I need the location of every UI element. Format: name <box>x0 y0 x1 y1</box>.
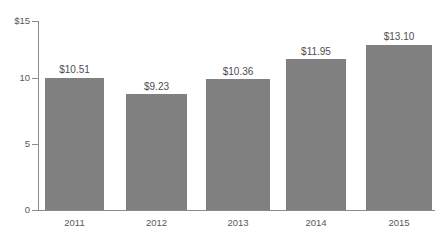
x-tick-label-2012: 2012 <box>126 217 187 228</box>
y-tick-label-15: $15 <box>14 16 30 26</box>
y-tick-label-10: 10 <box>19 73 30 83</box>
y-axis-line <box>38 21 39 211</box>
y-tick-label-5-wrap: 5 <box>0 139 30 149</box>
y-tick-15 <box>32 21 38 22</box>
x-tick-label-2013: 2013 <box>206 217 270 228</box>
bar-chart: $15 10 5 0 $10.51 $9.23 $10.36 $11.95 $1… <box>0 0 441 238</box>
bar-2012 <box>126 94 187 210</box>
y-tick-5 <box>32 144 38 145</box>
bar-value-2011: $10.51 <box>45 64 104 75</box>
bar-value-2013: $10.36 <box>206 66 270 77</box>
y-tick-label-10-wrap: 10 <box>0 73 30 83</box>
bar-2011 <box>45 78 104 210</box>
bar-value-2015: $13.10 <box>366 31 432 42</box>
y-tick-label-5: 5 <box>25 139 30 149</box>
y-tick-0 <box>32 210 38 211</box>
bar-2015 <box>366 45 432 210</box>
bar-value-2014: $11.95 <box>286 46 346 57</box>
bar-value-2012: $9.23 <box>126 81 187 92</box>
y-tick-label-0: 0 <box>25 205 30 215</box>
x-tick-label-2015: 2015 <box>366 217 432 228</box>
x-tick-label-2011: 2011 <box>45 217 104 228</box>
plot-area: $15 10 5 0 $10.51 $9.23 $10.36 $11.95 $1… <box>0 0 441 238</box>
x-axis-line <box>38 210 435 211</box>
x-tick-label-2014: 2014 <box>286 217 346 228</box>
bar-2014 <box>286 59 346 210</box>
y-tick-label-0-wrap: 0 <box>0 205 30 215</box>
y-tick-10 <box>32 78 38 79</box>
y-tick-label-15-wrap: $15 <box>0 16 30 26</box>
bar-2013 <box>206 79 270 210</box>
